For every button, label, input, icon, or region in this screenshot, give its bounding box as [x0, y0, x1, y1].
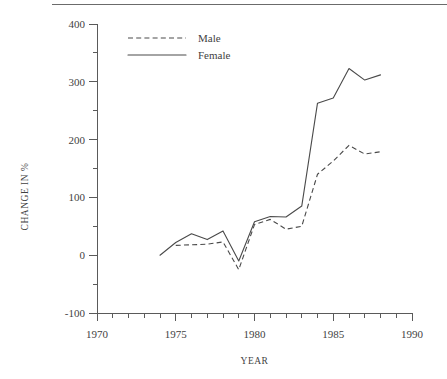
chart-figure: -1000100200300400 19701975198019851990 M…: [0, 0, 447, 379]
x-tick-label: 1980: [244, 328, 267, 340]
axis-titles: CHANGE IN %YEAR: [20, 163, 269, 366]
y-tick-label: 200: [69, 134, 86, 146]
y-axis-title: CHANGE IN %: [20, 163, 30, 231]
x-tick-label: 1970: [86, 328, 109, 340]
y-tick-label: 300: [69, 76, 86, 88]
chart-legend: MaleFemale: [128, 32, 230, 61]
data-series-group: [160, 69, 381, 270]
y-tick-label: 400: [69, 18, 86, 30]
series-line-male: [176, 145, 381, 269]
x-axis: 19701975198019851990: [86, 313, 424, 340]
line-chart-plot: -1000100200300400 19701975198019851990 M…: [0, 0, 447, 379]
y-tick-label: 100: [69, 191, 86, 203]
legend-label-female: Female: [198, 49, 230, 61]
x-tick-label: 1985: [322, 328, 345, 340]
y-tick-label: 0: [80, 249, 86, 261]
x-axis-title: YEAR: [241, 356, 269, 366]
y-tick-label: -100: [65, 307, 86, 319]
series-line-female: [160, 69, 381, 261]
x-tick-label: 1975: [165, 328, 188, 340]
legend-label-male: Male: [198, 32, 221, 44]
x-tick-label: 1990: [401, 328, 424, 340]
y-axis: -1000100200300400: [65, 18, 97, 319]
